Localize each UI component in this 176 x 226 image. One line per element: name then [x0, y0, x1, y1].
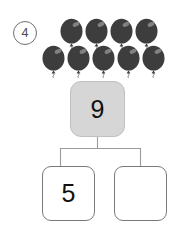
part-box-left[interactable]: 5 — [42, 166, 95, 221]
total-box[interactable]: 9 — [70, 81, 125, 137]
part-box-right[interactable] — [114, 166, 167, 221]
total-box-value: 9 — [91, 97, 105, 122]
worksheet-problem: 4 — [0, 0, 176, 226]
part-box-left-value: 5 — [62, 181, 76, 206]
